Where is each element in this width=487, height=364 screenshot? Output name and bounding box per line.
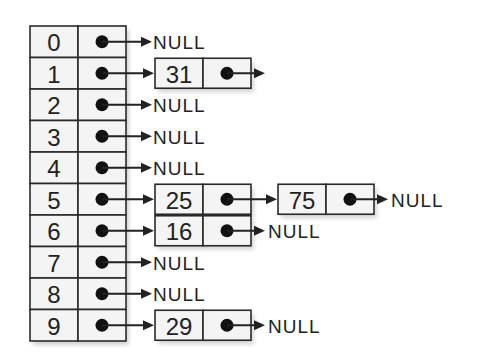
chain-6: 16NULL: [102, 216, 321, 250]
arrow-head-icon: [377, 194, 388, 204]
bucket-index: 5: [47, 187, 60, 214]
bucket-index: 2: [47, 92, 60, 119]
arrow-head-icon: [143, 194, 154, 204]
null-label: NULL: [153, 32, 206, 53]
arrow-head-icon: [254, 226, 265, 236]
bucket-index: 0: [47, 29, 60, 56]
hash-table-diagram: 0123456789 NULL31NULLNULLNULL2575NULL16N…: [0, 0, 487, 364]
null-label: NULL: [153, 158, 206, 179]
arrow-head-icon: [141, 289, 152, 299]
arrow-head-icon: [143, 68, 154, 78]
bucket-index: 7: [47, 250, 60, 277]
arrow-head-icon: [266, 194, 277, 204]
arrow-head-icon: [141, 131, 152, 141]
arrow-head-icon: [254, 320, 265, 330]
null-label: NULL: [153, 284, 206, 305]
chain-9: 29NULL: [102, 310, 321, 344]
arrow-head-icon: [143, 226, 154, 236]
bucket-index: 9: [47, 313, 60, 340]
chain-5: 2575NULL: [102, 184, 444, 218]
chains: NULL31NULLNULLNULL2575NULL16NULLNULLNULL…: [102, 32, 444, 344]
node-value: 25: [166, 187, 193, 214]
list-node: 25: [155, 184, 254, 218]
arrow-head-icon: [141, 100, 152, 110]
node-value: 31: [166, 61, 193, 88]
null-label: NULL: [391, 190, 444, 211]
arrow-head-icon: [254, 68, 265, 78]
bucket-index: 8: [47, 281, 60, 308]
arrow-head-icon: [141, 163, 152, 173]
null-label: NULL: [153, 253, 206, 274]
arrow-head-icon: [143, 320, 154, 330]
node-value: 75: [289, 187, 316, 214]
null-label: NULL: [153, 127, 206, 148]
arrow-head-icon: [141, 257, 152, 267]
null-label: NULL: [153, 95, 206, 116]
list-node: 16: [155, 216, 254, 250]
null-label: NULL: [268, 221, 321, 242]
bucket-index: 3: [47, 124, 60, 151]
node-value: 29: [166, 313, 193, 340]
arrow-head-icon: [141, 37, 152, 47]
list-node: 29: [155, 310, 254, 344]
null-label: NULL: [268, 316, 321, 337]
node-value: 16: [166, 218, 193, 245]
bucket-index: 1: [47, 61, 60, 88]
bucket-index: 6: [47, 218, 60, 245]
list-node: 75: [278, 184, 377, 218]
list-node: 31: [155, 58, 254, 92]
bucket-index: 4: [47, 155, 60, 182]
